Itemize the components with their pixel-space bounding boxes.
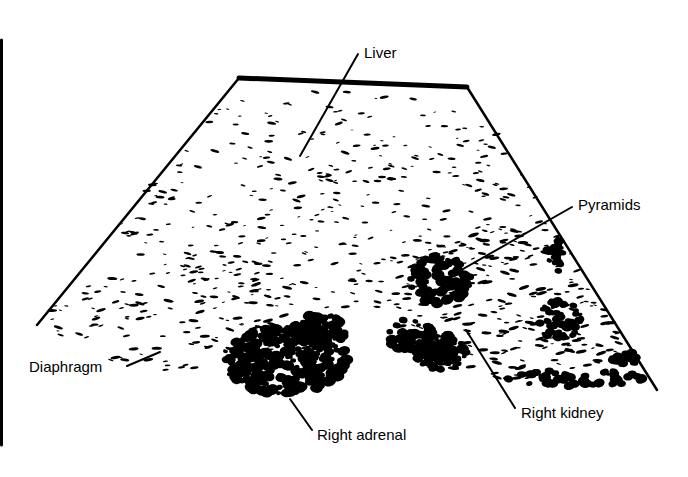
sector-left-edge (37, 78, 239, 325)
label-text-liver: Liver (364, 44, 397, 61)
transducer-face-edge (239, 78, 467, 87)
label-text-pyramids: Pyramids (578, 196, 641, 213)
diagram-svg: Liver Pyramids Diaphragm Right adrenal R… (0, 0, 688, 477)
label-text-right-adrenal: Right adrenal (317, 426, 406, 443)
label-text-diaphragm: Diaphragm (29, 358, 102, 375)
label-right-adrenal: Right adrenal (290, 399, 406, 443)
leader-line-right-adrenal (290, 399, 312, 430)
label-liver: Liver (300, 44, 397, 156)
ultrasound-diagram-figure: Liver Pyramids Diaphragm Right adrenal R… (0, 0, 688, 477)
leader-line-liver (300, 54, 358, 156)
dense-echo-regions (222, 236, 649, 398)
leader-line-right-kidney (466, 330, 515, 408)
leader-line-diaphragm (127, 352, 160, 366)
label-text-right-kidney: Right kidney (521, 404, 604, 421)
label-diaphragm: Diaphragm (29, 352, 160, 375)
